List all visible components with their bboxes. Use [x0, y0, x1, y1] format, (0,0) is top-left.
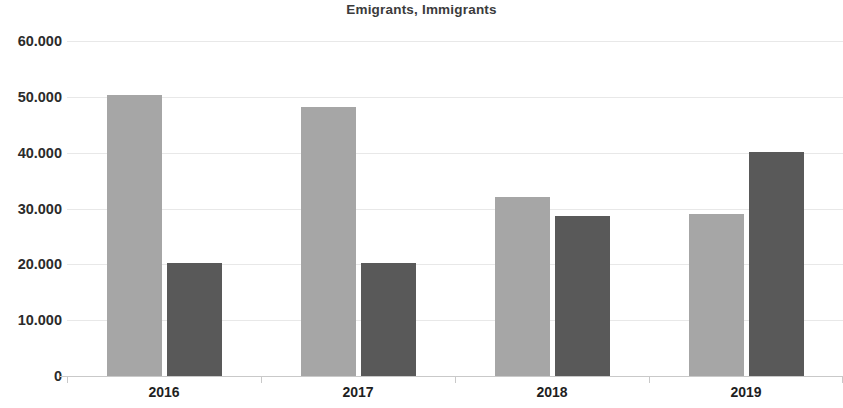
- x-axis-tick-mark: [455, 376, 456, 383]
- x-axis-tick-label-2019: 2019: [656, 384, 836, 400]
- x-axis-tick-mark: [261, 376, 262, 383]
- bar-chart: Emigrants, Immigrants 010.00020.00030.00…: [0, 0, 843, 408]
- x-axis-tick-label-2018: 2018: [462, 384, 642, 400]
- x-axis-tick-mark: [649, 376, 650, 383]
- x-axis-tick-label-2016: 2016: [74, 384, 254, 400]
- x-axis: 2016201720182019: [0, 0, 843, 408]
- x-axis-tick-mark: [67, 376, 68, 383]
- x-axis-tick-label-2017: 2017: [268, 384, 448, 400]
